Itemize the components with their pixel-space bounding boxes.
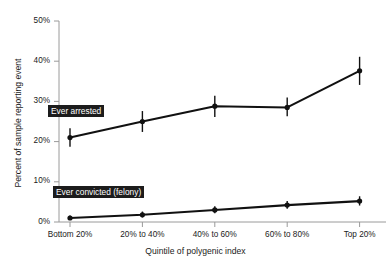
line-chart-plot <box>0 0 391 264</box>
data-point-marker <box>212 207 217 212</box>
y-tick-label: 40% <box>0 56 50 65</box>
series-label-ever-convicted: Ever convicted (felony) <box>53 186 144 198</box>
data-point-marker <box>67 135 72 140</box>
y-tick-label: 30% <box>0 96 50 105</box>
x-axis-title: Quintile of polygenic index <box>0 246 391 256</box>
data-point-marker <box>285 105 290 110</box>
series-ever-arrested <box>67 57 362 147</box>
data-point-marker <box>357 68 362 73</box>
y-tick-label: 10% <box>0 176 50 185</box>
data-point-marker <box>140 119 145 124</box>
x-axis-ticks <box>70 222 360 227</box>
data-point-marker <box>140 212 145 217</box>
y-tick-label: 50% <box>0 16 50 25</box>
y-tick-label: 0% <box>0 217 50 226</box>
data-point-marker <box>357 198 362 203</box>
data-point-marker <box>67 215 72 220</box>
series-label-ever-arrested: Ever arrested <box>48 105 104 117</box>
data-point-marker <box>285 203 290 208</box>
series-ever-convicted <box>67 196 362 220</box>
y-axis-title: Percent of sample reporting event <box>13 43 23 203</box>
chart-figure: 0%10%20%30%40%50% Bottom 20%20% to 40%40… <box>0 0 391 264</box>
data-point-marker <box>212 104 217 109</box>
y-tick-label: 20% <box>0 136 50 145</box>
x-tick-label: Top 20% <box>315 230 391 239</box>
